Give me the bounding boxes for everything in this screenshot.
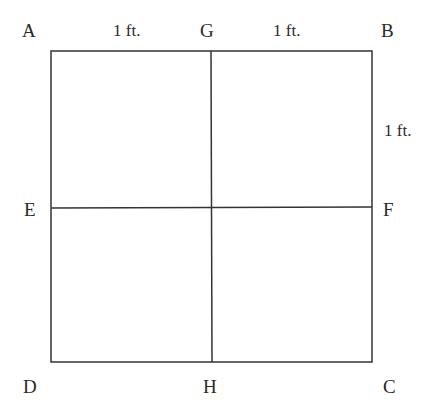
point-label-E: E [24, 200, 36, 219]
segment-GH [211, 51, 212, 362]
dimension-AG: 1 ft. [113, 22, 140, 39]
point-label-A: A [22, 21, 36, 40]
point-label-H: H [203, 377, 217, 396]
point-label-C: C [383, 377, 396, 396]
segment-EF [51, 207, 372, 208]
square-diagram [0, 0, 434, 409]
point-label-B: B [381, 21, 394, 40]
point-label-D: D [23, 377, 37, 396]
point-label-F: F [383, 200, 394, 219]
dimension-GB: 1 ft. [273, 22, 300, 39]
point-label-G: G [200, 21, 214, 40]
dimension-BF: 1 ft. [384, 122, 411, 139]
